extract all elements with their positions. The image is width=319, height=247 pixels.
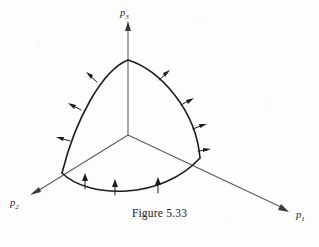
figure-caption: Figure 5.33 xyxy=(0,207,319,219)
surface-patch xyxy=(62,60,200,191)
axis-p3 xyxy=(125,21,131,135)
normal-arrow xyxy=(56,137,70,141)
figure-container: p3 p2 p1 Figure 5.33 xyxy=(0,0,319,247)
normal-arrow xyxy=(181,98,194,105)
axis-p2-arrowhead xyxy=(30,187,41,195)
axis-p1 xyxy=(128,135,289,212)
normal-arrow xyxy=(68,103,81,110)
axis-p1-line xyxy=(128,135,283,208)
axis-label-p3: p3 xyxy=(119,7,129,21)
normal-arrows-left-arc xyxy=(56,72,97,141)
normal-arrow xyxy=(155,177,161,193)
normal-arrow xyxy=(193,124,207,129)
normal-arrow xyxy=(159,70,170,80)
axis-p3-arrowhead xyxy=(125,21,131,31)
normal-arrow xyxy=(112,179,118,195)
normal-arrow xyxy=(86,72,97,82)
